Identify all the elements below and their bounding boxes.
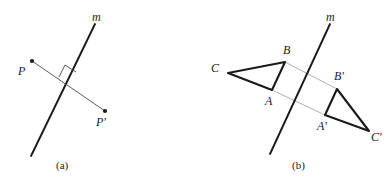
vertex-label-b: B xyxy=(283,44,290,56)
vertex-label-b-prime: B' xyxy=(334,70,344,82)
point-p-prime-label: P' xyxy=(96,116,106,128)
vertex-label-c: C xyxy=(211,62,219,74)
caption-a: (a) xyxy=(56,160,68,171)
point-p xyxy=(30,59,34,63)
reflection-figure: m P P' (a) m A B C A' B' C' (b) xyxy=(0,0,392,186)
line-m-label-b: m xyxy=(326,11,335,23)
line-m-label-a: m xyxy=(92,11,101,23)
segment-p-pprime xyxy=(32,61,105,111)
vertex-label-a: A xyxy=(265,95,272,107)
point-p-prime xyxy=(103,109,107,113)
triangle-abc-prime xyxy=(325,89,369,131)
vertex-label-c-prime: C' xyxy=(371,131,382,143)
vertex-label-a-prime: A' xyxy=(317,120,327,132)
panel-a-graphics xyxy=(30,24,107,156)
line-m-b xyxy=(270,24,330,154)
panel-b-graphics xyxy=(228,24,369,154)
point-p-label: P xyxy=(18,65,25,77)
triangle-abc xyxy=(228,62,285,90)
caption-b: (b) xyxy=(292,160,305,171)
line-m-a xyxy=(31,24,95,156)
